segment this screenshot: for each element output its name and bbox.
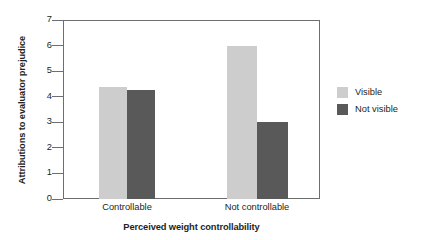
legend-label: Visible bbox=[355, 88, 382, 97]
y-axis-tick bbox=[52, 122, 63, 123]
y-axis-tick bbox=[52, 45, 63, 46]
y-axis-tick bbox=[52, 71, 63, 72]
bar-chart-figure: Attributions to evaluator prejudice 0123… bbox=[0, 0, 427, 240]
y-axis-tick-label: 6 bbox=[38, 41, 52, 50]
bar-not-controllable-visible bbox=[227, 46, 257, 199]
y-axis-tick-label: 2 bbox=[38, 143, 52, 152]
y-axis-tick-label: 3 bbox=[38, 117, 52, 126]
legend-label: Not visible bbox=[355, 105, 398, 114]
legend-swatch-icon bbox=[337, 87, 348, 98]
legend-item: Not visible bbox=[337, 101, 398, 118]
chart-legend: VisibleNot visible bbox=[337, 84, 398, 118]
y-axis-tick-label: 5 bbox=[38, 66, 52, 75]
x-axis-title: Perceived weight controllability bbox=[63, 222, 320, 232]
bars-layer bbox=[63, 20, 320, 199]
y-axis-tick-label: 1 bbox=[38, 168, 52, 177]
y-axis-tick bbox=[52, 173, 63, 174]
y-axis-tick-label: 7 bbox=[38, 15, 52, 24]
y-axis-title: Attributions to evaluator prejudice bbox=[17, 10, 27, 210]
bar-controllable-not-visible bbox=[127, 90, 155, 199]
bar-not-controllable-not-visible bbox=[257, 122, 288, 199]
y-axis-tick bbox=[52, 20, 63, 21]
y-axis-tick bbox=[52, 147, 63, 148]
x-axis-tick-label: Not controllable bbox=[197, 203, 317, 212]
y-axis-tick bbox=[52, 96, 63, 97]
y-axis-tick-label: 0 bbox=[38, 194, 52, 203]
y-axis-tick-label: 4 bbox=[38, 92, 52, 101]
y-axis-tick bbox=[52, 199, 63, 200]
x-axis-tick-label: Controllable bbox=[67, 203, 187, 212]
bar-controllable-visible bbox=[99, 87, 127, 200]
legend-swatch-icon bbox=[337, 104, 348, 115]
legend-item: Visible bbox=[337, 84, 398, 101]
